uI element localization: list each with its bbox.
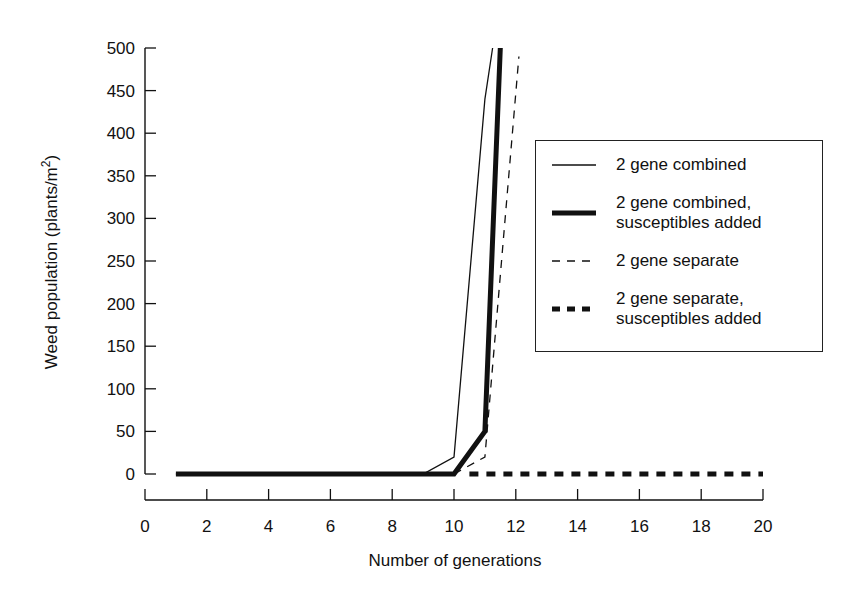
- series-line-0: [176, 48, 493, 474]
- legend-item-2-gene-combined: 2 gene combined: [536, 153, 822, 177]
- thick-dotted-line-icon: [552, 304, 600, 314]
- x-tick-label: 2: [202, 517, 211, 536]
- y-tick-label: 50: [116, 422, 135, 441]
- legend-label: 2 gene combined, susceptibles added: [616, 193, 762, 233]
- x-tick-label: 8: [387, 517, 396, 536]
- y-tick-label: 300: [107, 209, 135, 228]
- y-axis: 050100150200250300350400450500: [107, 39, 156, 484]
- x-tick-label: 14: [568, 517, 587, 536]
- x-tick-label: 6: [326, 517, 335, 536]
- thin-dashed-line-icon: [552, 256, 600, 266]
- x-axis-title: Number of generations: [369, 551, 542, 570]
- x-tick-label: 18: [692, 517, 711, 536]
- series-line-1: [176, 48, 500, 474]
- y-tick-label: 0: [126, 465, 135, 484]
- legend-item-2-gene-separate: 2 gene separate: [536, 249, 822, 273]
- x-tick-label: 16: [630, 517, 649, 536]
- legend-item-2-gene-combined-susceptibles: 2 gene combined, susceptibles added: [536, 191, 822, 235]
- y-tick-label: 450: [107, 82, 135, 101]
- x-axis: 02468101214161820: [140, 489, 772, 536]
- x-tick-label: 20: [754, 517, 773, 536]
- legend-item-2-gene-separate-susceptibles: 2 gene separate, susceptibles added: [536, 287, 822, 331]
- x-tick-label: 4: [264, 517, 273, 536]
- y-tick-label: 400: [107, 124, 135, 143]
- y-tick-label: 150: [107, 337, 135, 356]
- y-tick-label: 350: [107, 167, 135, 186]
- y-axis-title: Weed population (plants/m2): [39, 155, 61, 369]
- y-tick-label: 200: [107, 295, 135, 314]
- y-tick-label: 500: [107, 39, 135, 58]
- legend-label: 2 gene separate, susceptibles added: [616, 289, 762, 329]
- chart-legend: 2 gene combined 2 gene combined, suscept…: [535, 140, 823, 352]
- y-tick-label: 250: [107, 252, 135, 271]
- legend-label: 2 gene separate: [616, 251, 739, 271]
- x-tick-label: 10: [445, 517, 464, 536]
- legend-label: 2 gene combined: [616, 155, 746, 175]
- x-tick-label: 0: [140, 517, 149, 536]
- thick-solid-line-icon: [552, 208, 600, 218]
- thin-solid-line-icon: [552, 160, 600, 170]
- y-tick-label: 100: [107, 380, 135, 399]
- x-tick-label: 12: [506, 517, 525, 536]
